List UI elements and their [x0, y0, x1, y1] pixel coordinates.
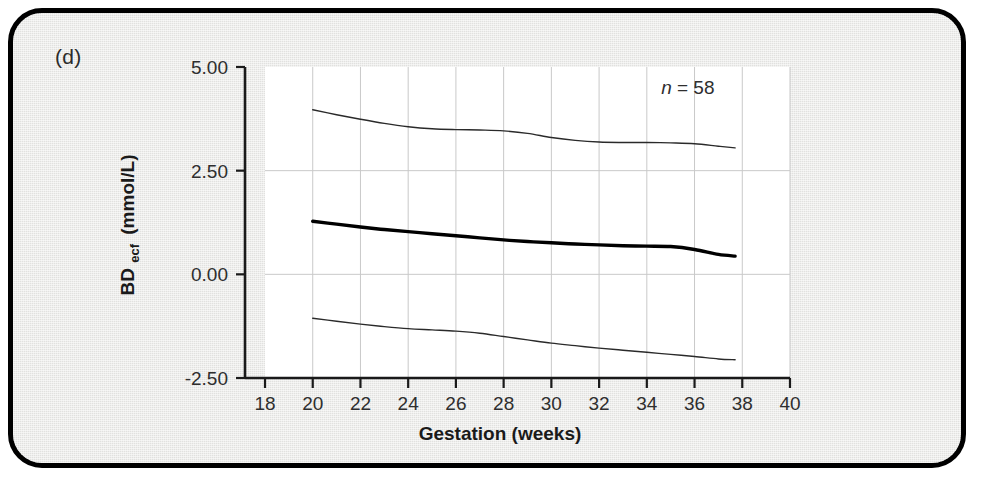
- x-axis-tick-label: 28: [493, 393, 514, 414]
- y-axis-title-units: (mmol/L): [117, 154, 138, 234]
- x-axis-tick-label: 38: [732, 393, 753, 414]
- x-axis-tick-label: 22: [350, 393, 371, 414]
- x-axis-tick-label: 18: [254, 393, 275, 414]
- y-axis-tick-label: 5.00: [191, 57, 228, 78]
- y-axis-title-main: BD: [117, 268, 138, 295]
- svg-text:BD ecf (mmol/L: BD ecf (mmol/L): [117, 154, 143, 295]
- x-axis-tick-label: 30: [541, 393, 562, 414]
- plot-background: [265, 67, 790, 378]
- annotation-sample-size: n = 58: [661, 77, 714, 98]
- x-axis-tick-label: 34: [636, 393, 658, 414]
- x-axis-tick-label: 40: [779, 393, 800, 414]
- y-axis-tick-label: 2.50: [191, 161, 228, 182]
- annotation-symbol: n: [661, 77, 672, 98]
- annotation-value: = 58: [672, 77, 715, 98]
- chart-figure: 182022242628303234363840 -2.500.002.505.…: [0, 0, 982, 483]
- x-axis-tick-label: 24: [398, 393, 420, 414]
- x-axis-tick-label: 32: [589, 393, 610, 414]
- y-axis-title: BD ecf (mmol/L): [117, 154, 143, 295]
- plot-area: [265, 67, 790, 378]
- x-axis-title: Gestation (weeks): [419, 423, 582, 444]
- x-axis-tick-label: 20: [302, 393, 323, 414]
- x-axis-tick-label: 36: [684, 393, 705, 414]
- x-axis-tick-label: 26: [445, 393, 466, 414]
- x-axis-tick-labels: 182022242628303234363840: [254, 393, 800, 414]
- y-axis-tick-labels: -2.500.002.505.00: [185, 57, 228, 389]
- y-axis-title-subscript: ecf: [127, 243, 142, 262]
- y-axis-tick-label: -2.50: [185, 368, 228, 389]
- chart-annotations: n = 58: [661, 77, 714, 98]
- y-axis-tick-label: 0.00: [191, 264, 228, 285]
